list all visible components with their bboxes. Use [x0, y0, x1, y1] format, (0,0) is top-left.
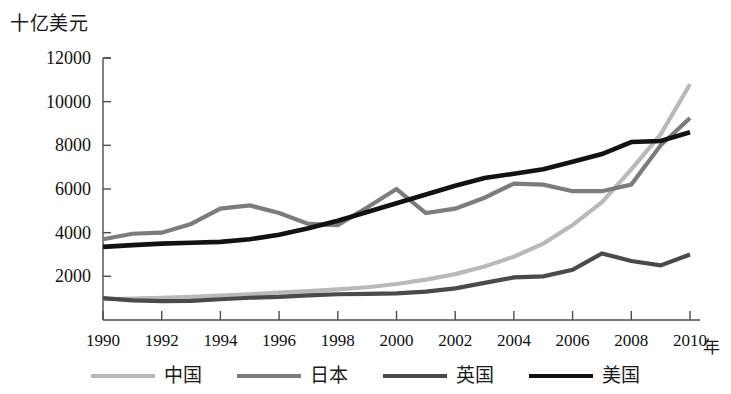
legend-item-0[interactable]: 中国 [91, 366, 203, 385]
legend-swatch-line-icon [91, 374, 155, 378]
x-tick-label: 2006 [556, 331, 590, 350]
legend-label: 英国 [456, 366, 495, 385]
y-tick-label: 8000 [55, 135, 91, 155]
legend-item-3[interactable]: 美国 [529, 366, 641, 385]
chart-legend: 中国日本英国美国 [0, 366, 731, 385]
x-tick-label: 1992 [145, 331, 179, 350]
x-tick-label: 2008 [614, 331, 648, 350]
legend-swatch-line-icon [237, 374, 301, 378]
y-axis-tick-group: 20004000600080001000012000 [46, 48, 111, 286]
series-line-2 [103, 253, 690, 301]
x-tick-label: 1998 [321, 331, 355, 350]
x-tick-label: 2010 [673, 331, 707, 350]
x-axis-tick-group: 1990199219941996199820002002200420062008… [86, 311, 707, 350]
y-tick-label: 4000 [55, 223, 91, 243]
legend-label: 中国 [164, 366, 203, 385]
chart-plot-area: 20004000600080001000012000 1990199219941… [0, 0, 731, 394]
x-tick-label: 2000 [380, 331, 414, 350]
x-tick-label: 1996 [262, 331, 296, 350]
data-series-group [103, 84, 690, 301]
x-tick-label: 2002 [438, 331, 472, 350]
x-tick-label: 1994 [203, 331, 238, 350]
y-tick-label: 12000 [46, 48, 91, 68]
y-tick-label: 10000 [46, 92, 91, 112]
legend-item-2[interactable]: 英国 [383, 366, 495, 385]
x-tick-label: 1990 [86, 331, 120, 350]
legend-label: 日本 [310, 366, 349, 385]
legend-item-1[interactable]: 日本 [237, 366, 349, 385]
series-line-1 [103, 118, 690, 239]
chart-container: 十亿美元 20004000600080001000012000 19901992… [0, 0, 731, 394]
legend-label: 美国 [602, 366, 641, 385]
y-tick-label: 6000 [55, 179, 91, 199]
legend-swatch-line-icon [529, 374, 593, 378]
legend-swatch-line-icon [383, 374, 447, 378]
y-tick-label: 2000 [55, 266, 91, 286]
x-axis-title: 年 [703, 333, 720, 358]
x-tick-label: 2004 [497, 331, 532, 350]
